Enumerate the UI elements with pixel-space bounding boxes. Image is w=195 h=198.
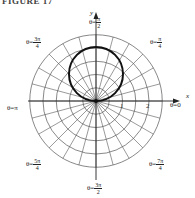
- angular-spoke: [39, 68, 96, 101]
- label-theta-3pi-over-4: θ=3π4: [26, 36, 41, 49]
- angular-spoke: [39, 101, 96, 134]
- label-theta-pi: θ=π: [7, 105, 18, 112]
- label-theta-5pi-over-4: θ=5π4: [26, 158, 41, 171]
- angular-spoke: [96, 68, 153, 101]
- angular-spoke: [96, 101, 160, 118]
- label-theta-0: θ=0: [170, 102, 181, 109]
- tick-label-1: 1: [120, 102, 124, 110]
- label-theta-3pi-over-2: θ=3π2: [87, 182, 102, 195]
- label-theta-pi-over-2: θ=π2: [89, 16, 101, 29]
- label-theta-7pi-over-4: θ=7π4: [149, 158, 164, 171]
- angular-spoke: [96, 101, 129, 158]
- angular-spoke: [32, 101, 96, 118]
- angular-spoke: [79, 101, 96, 165]
- x-axis-label: x: [186, 92, 189, 100]
- pole: [94, 99, 98, 103]
- angular-spoke: [49, 101, 96, 148]
- angular-spoke: [63, 101, 96, 158]
- tick-label-2: 2: [146, 102, 150, 110]
- angular-spoke: [96, 101, 153, 134]
- angular-spoke: [96, 101, 113, 165]
- label-theta-pi-over-4: θ=π4: [150, 36, 162, 49]
